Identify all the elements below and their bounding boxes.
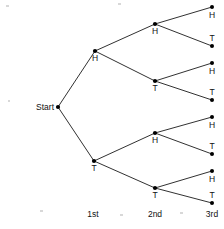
- tree-edges: [58, 7, 212, 203]
- stage-label-2nd: 2nd: [148, 209, 162, 219]
- tree-edge-HH-to-HHH: [155, 7, 212, 24]
- tree-node-dot-TTH: [210, 169, 214, 173]
- tree-node-label-TTT: T: [209, 190, 214, 200]
- tree-edge-Start-to-T: [58, 107, 94, 161]
- tree-node-label-TH: H: [152, 135, 158, 145]
- tree-node-labels: HTHTHTHTHTHTHT: [91, 10, 215, 200]
- tree-edge-Start-to-H: [58, 51, 95, 107]
- tree-edge-HT-to-HTH: [155, 63, 212, 81]
- start-node-label: Start: [36, 102, 55, 112]
- tree-node-label-THT: T: [209, 141, 214, 151]
- tree-node-label-HTT: T: [209, 87, 214, 97]
- tree-node-dot-HHT: [210, 44, 214, 48]
- tree-edge-T-to-TT: [94, 161, 155, 188]
- tree-node-label-HT: T: [152, 83, 157, 93]
- tree-edge-HH-to-HHT: [155, 24, 212, 46]
- start-node-dot: [56, 105, 60, 109]
- stage-label-1st: 1st: [87, 209, 99, 219]
- tree-node-label-HH: H: [152, 26, 158, 36]
- tree-node-dot-HHH: [210, 5, 214, 9]
- tree-edge-T-to-TH: [94, 133, 155, 161]
- tree-edge-TH-to-THT: [155, 133, 212, 154]
- tree-edge-HT-to-HTT: [155, 81, 212, 100]
- tree-node-label-TT: T: [152, 190, 157, 200]
- tree-node-dot-THH: [210, 115, 214, 119]
- tree-node-dot-HTH: [210, 61, 214, 65]
- tree-edge-TT-to-TTH: [155, 171, 212, 188]
- tree-node-dot-HTT: [210, 98, 214, 102]
- tree-node-dot-TTT: [210, 201, 214, 205]
- tree-node-label-HHH: H: [209, 10, 215, 20]
- tree-node-dot-THT: [210, 152, 214, 156]
- tree-node-label-T: T: [91, 163, 96, 173]
- tree-edge-H-to-HT: [95, 51, 155, 81]
- tree-node-label-TTH: H: [209, 174, 215, 184]
- tree-node-label-H: H: [92, 53, 98, 63]
- tree-edge-H-to-HH: [95, 24, 155, 51]
- stage-label-3rd: 3rd: [206, 209, 219, 219]
- probability-tree-diagram: HTHTHTHTHTHTHT Start 1st2nd3rd: [0, 0, 224, 229]
- tree-node-label-THH: H: [209, 120, 215, 130]
- tree-node-label-HTH: H: [209, 66, 215, 76]
- tree-edge-TT-to-TTT: [155, 188, 212, 203]
- tree-node-label-HHT: T: [209, 33, 214, 43]
- stage-axis-labels: 1st2nd3rd: [87, 209, 218, 219]
- tree-edge-TH-to-THH: [155, 117, 212, 133]
